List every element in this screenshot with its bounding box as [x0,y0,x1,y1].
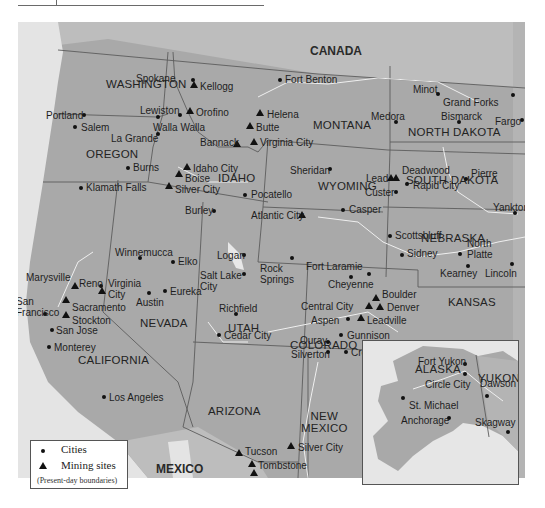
place-label-tombstone: Tombstone [258,460,307,471]
place-label-circle-city: Circle City [425,379,471,390]
place-label-bannack: Bannack [200,137,239,148]
country-label-canada: CANADA [310,44,362,58]
place-label-san-francisco: SanFrancisco [18,296,59,318]
city-dot-icon-pierre [464,177,468,181]
place-label-elko: Elko [178,256,197,267]
mining-site-triangle-icon-bisbee [250,469,258,476]
city-dot-icon-scottsbluff [388,234,392,238]
mining-site-triangle-icon-tombstone [248,460,256,467]
place-label-sheridan: Sheridan [290,165,330,176]
place-label-boulder: Boulder [382,289,416,300]
place-label-logan: Logan [217,250,245,261]
legend-city-dot-icon [41,449,45,453]
place-label-burns: Burns [133,162,159,173]
city-dot-icon-north-platte [458,252,462,256]
place-label-lewiston: Lewiston [140,105,179,116]
mining-site-triangle-icon-helena [256,109,264,116]
alaska-inset: ALASKA YUKON Fort YukonCircle CityDawson… [362,340,519,485]
place-label-bismarck: Bismarck [441,111,482,122]
header-tick [56,0,57,6]
city-dot-icon-salem [73,125,77,129]
place-label-marysville: Marysville [26,272,70,283]
place-label-denver: Denver [387,302,419,313]
city-dot-icon-cedar-city [217,333,221,337]
city-dot-icon-lincoln [510,262,514,266]
state-label-new-mexico: NEWMEXICO [301,410,348,434]
place-label-orofino: Orofino [196,107,229,118]
place-label-scottsbluff: Scottsbluff [395,230,442,241]
place-label-st-michael: St. Michael [409,400,458,411]
place-label-yankton: Yankton [493,202,525,213]
map-legend: Cities Mining sites (Present-day boundar… [30,440,128,489]
place-label-kearney: Kearney [440,268,477,279]
place-label-medora: Medora [371,111,405,122]
place-label-custer: Custer [365,187,394,198]
place-label-grand-forks: Grand Forks [443,97,499,108]
place-label-dawson: Dawson [480,378,516,389]
place-label-skagway: Skagway [475,417,516,428]
place-label-pierre: Pierre [471,168,498,179]
city-dot-icon-sidney [400,253,404,257]
city-dot-icon-walla-walla [156,115,160,119]
legend-cities-label: Cities [61,443,87,455]
place-label-eureka: Eureka [170,286,202,297]
city-dot-icon-gunnison [339,333,343,337]
place-label-los-angeles: Los Angeles [109,392,164,403]
place-label-fargo: Fargo [495,116,521,127]
place-label-fort-benton: Fort Benton [285,74,337,85]
mining-site-triangle-icon-butte [246,122,254,129]
city-dot-icon-pocatello [243,193,247,197]
city-dot-icon-casper [341,208,345,212]
city-dot-icon-san-jose [50,328,54,332]
mining-site-triangle-icon-idaho-city [183,163,191,170]
place-label-cedar-city: Cedar City [224,330,271,341]
place-label-walla-walla: Walla Walla [153,122,205,133]
place-label-leadville: Leadville [367,315,406,326]
place-label-lincoln: Lincoln [485,268,517,279]
place-label-austin: Austin [136,297,164,308]
place-label-casper: Casper [349,204,381,215]
place-label-salem: Salem [81,122,109,133]
header-rule [18,5,264,6]
city-dot-icon-cheyenne [367,272,371,276]
mining-site-triangle-icon-virginia-city [98,287,106,294]
mining-site-triangle-icon-virginia-city [250,138,258,145]
place-label-silver-city: Silver City [175,184,220,195]
city-dot-icon-custer [394,190,398,194]
place-label-minot: Minot [413,84,437,95]
state-label-arizona: ARIZONA [208,405,261,417]
place-label-pocatello: Pocatello [251,189,292,200]
place-label-silver-city: Silver City [298,442,343,453]
mining-site-triangle-icon-silver-city [165,182,173,189]
place-label-sacramento: Sacramento [72,302,126,313]
place-label-deadwood: Deadwood [402,165,450,176]
place-label-aspen: Aspen [311,315,339,326]
mining-site-triangle-icon-silver-city [287,442,295,449]
mining-site-triangle-icon-leadville [357,314,365,321]
city-dot-icon-los-angeles [102,395,106,399]
place-label-salt-lake-city: Salt LakeCity [200,270,242,292]
legend-boundaries-note: (Present-day boundaries) [37,476,117,485]
canada-region [18,22,525,88]
place-label-boise: Boise [185,173,210,184]
city-dot-icon-salt-lake-city [242,272,246,276]
mining-site-triangle-icon-sacramento [62,296,70,303]
city-dot-icon-burns [126,166,130,170]
mining-site-triangle-icon-tucson [235,449,243,456]
state-label-montana: MONTANA [313,119,371,131]
country-label-mexico: MEXICO [156,462,203,476]
mining-site-triangle-icon-kellogg [190,81,198,88]
mining-site-triangle-icon-deadwood [392,174,400,181]
place-label-tucson: Tucson [245,446,277,457]
city-dot-icon-rapid-city [405,182,409,186]
mining-site-triangle-icon-denver [376,303,384,310]
city-dot-icon-elko [171,260,175,264]
place-label-san-jose: San Jose [56,325,98,336]
city-dot-icon-monterey [47,345,51,349]
place-label-spokane: Spokane [136,73,175,84]
state-label-nevada: NEVADA [140,317,188,329]
state-label-california: CALIFORNIA [78,354,149,366]
place-label-portland: Portland [46,110,83,121]
place-label-helena: Helena [267,109,299,120]
city-dot-icon-grand-forks [511,93,515,97]
